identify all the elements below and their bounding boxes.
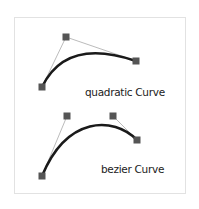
bezier-control2-handle[interactable] (110, 113, 117, 120)
quadratic-start-handle[interactable] (39, 84, 46, 91)
bezier-curve-label: bezier Curve (101, 163, 164, 175)
curves-diagram: quadratic Curve bezier Curve (0, 0, 199, 209)
bezier-end-handle[interactable] (134, 137, 141, 144)
quadratic-end-handle[interactable] (133, 58, 140, 65)
quadratic-control-handle[interactable] (63, 34, 70, 41)
bezier-start-handle[interactable] (39, 173, 46, 180)
quadratic-curve-label: quadratic Curve (85, 86, 165, 98)
bezier-control1-handle[interactable] (64, 113, 71, 120)
